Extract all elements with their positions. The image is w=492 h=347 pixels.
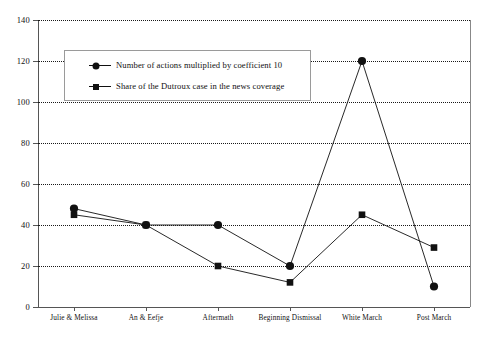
x-tick-mark xyxy=(362,307,363,311)
gridline xyxy=(38,266,470,267)
gridline xyxy=(38,20,470,21)
x-tick-label: Aftermath xyxy=(203,313,234,322)
x-tick-mark xyxy=(74,307,75,311)
x-tick-label: Julie & Melissa xyxy=(50,313,97,322)
gridline xyxy=(38,102,470,103)
legend-line-sample xyxy=(89,65,111,66)
y-tick-mark xyxy=(33,307,38,308)
x-tick-label: White March xyxy=(342,313,382,322)
legend-line-sample xyxy=(89,86,111,87)
y-tick-label: 100 xyxy=(0,97,30,107)
legend-item-label: Share of the Dutroux case in the news co… xyxy=(116,81,284,91)
x-tick-mark xyxy=(290,307,291,311)
gridline xyxy=(38,143,470,144)
y-tick-label: 80 xyxy=(0,138,30,148)
y-tick-label: 120 xyxy=(0,56,30,66)
x-axis-line xyxy=(38,307,470,308)
plot-right-border xyxy=(470,20,471,307)
y-tick-label: 140 xyxy=(0,15,30,25)
legend-item-share: Share of the Dutroux case in the news co… xyxy=(89,81,284,91)
x-tick-label: An & Eefje xyxy=(129,313,164,322)
legend-item-label: Number of actions multiplied by coeffici… xyxy=(116,60,282,70)
circle-marker-icon xyxy=(93,62,100,69)
line-chart: 020406080100120140 Julie & MelissaAn & E… xyxy=(0,0,492,347)
x-tick-label: Post March xyxy=(417,313,451,322)
gridline xyxy=(38,184,470,185)
y-tick-label: 60 xyxy=(0,179,30,189)
legend-item-actions: Number of actions multiplied by coeffici… xyxy=(89,60,282,70)
x-tick-mark xyxy=(218,307,219,311)
gridline xyxy=(38,225,470,226)
y-axis-line xyxy=(38,20,39,307)
chart-legend: Number of actions multiplied by coeffici… xyxy=(64,50,311,101)
y-tick-label: 40 xyxy=(0,220,30,230)
y-tick-label: 20 xyxy=(0,261,30,271)
x-tick-mark xyxy=(146,307,147,311)
x-tick-mark xyxy=(434,307,435,311)
y-tick-label: 0 xyxy=(0,302,30,312)
square-marker-icon xyxy=(93,84,99,90)
x-tick-label: Beginning Dismissal xyxy=(259,313,322,322)
